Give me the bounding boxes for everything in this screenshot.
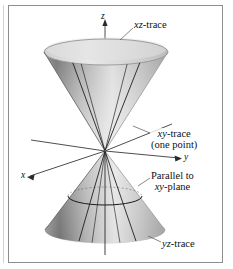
- label-parallel-math: xy: [155, 181, 164, 192]
- label-xz-trace: xz-trace: [133, 19, 168, 30]
- axis-label-y: y: [184, 152, 188, 162]
- y-axis-back: [31, 140, 105, 151]
- label-xy-trace-rest: -trace: [167, 128, 191, 139]
- axis-label-x: x: [21, 170, 25, 180]
- label-yz-trace-math: yz: [162, 238, 171, 249]
- label-xy-trace-math: xy: [158, 128, 167, 139]
- label-parallel-line2: xy-plane: [151, 181, 194, 192]
- label-xz-trace-rest: -trace: [143, 19, 167, 30]
- label-yz-trace-rest: -trace: [171, 238, 195, 249]
- label-parallel-line1: Parallel to: [151, 170, 194, 181]
- y-axis-arrowhead: [175, 155, 182, 161]
- figure-panel: xz-trace xy-trace(one point) Parallel to…: [0, 0, 233, 269]
- label-yz-trace: yz-trace: [161, 238, 196, 249]
- parallel-leader: [138, 178, 150, 186]
- xy-trace-leader: [133, 126, 150, 133]
- axis-label-z: z: [101, 11, 105, 21]
- label-parallel-plane: Parallel toxy-plane: [150, 170, 195, 193]
- label-xy-trace-line2: (one point): [151, 139, 197, 150]
- label-xy-trace: xy-trace(one point): [150, 128, 198, 151]
- y-axis-line: [105, 151, 179, 158]
- upper-cup-shade: [46, 38, 166, 61]
- label-parallel-rest: -plane: [164, 181, 190, 192]
- label-xz-trace-math: xz: [134, 19, 143, 30]
